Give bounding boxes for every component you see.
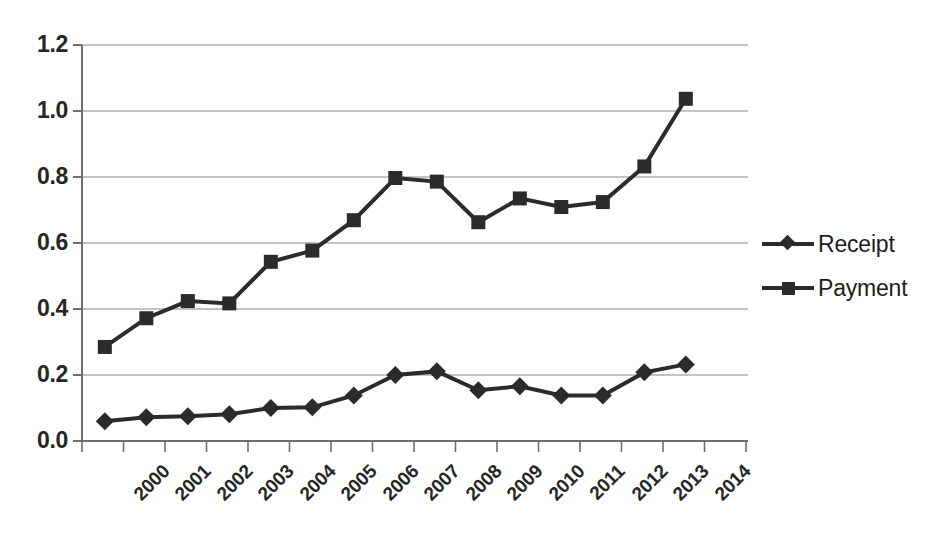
data-point-receipt-2012[interactable] [594,386,612,404]
data-point-payment-2002[interactable] [181,294,195,308]
data-point-payment-2007[interactable] [388,171,402,185]
legend-item-receipt[interactable]: Receipt [762,222,927,266]
data-point-receipt-2008[interactable] [428,362,446,380]
data-point-receipt-2004[interactable] [262,399,280,417]
data-point-payment-2011[interactable] [554,200,568,214]
y-axis-tick-label: 0.6 [8,231,68,254]
legend-item-payment[interactable]: Payment [762,266,927,310]
data-point-payment-2010[interactable] [513,191,527,205]
data-point-payment-2009[interactable] [471,215,485,229]
data-series-layer [96,92,695,430]
y-axis-ticks [73,45,82,441]
chart-legend: Receipt Payment [762,222,927,310]
y-axis-tick-label: 1.0 [8,99,68,122]
y-axis-tick-label: 0.4 [8,297,68,320]
y-axis-tick-label: 1.2 [8,33,68,56]
legend-symbol-payment [762,277,814,299]
legend-label-receipt: Receipt [814,233,895,256]
data-point-payment-2008[interactable] [430,175,444,189]
data-point-payment-2000[interactable] [98,340,112,354]
data-point-receipt-2010[interactable] [511,377,529,395]
data-point-payment-2004[interactable] [264,255,278,269]
data-point-receipt-2001[interactable] [137,408,155,426]
data-point-receipt-2000[interactable] [96,412,114,430]
y-axis-tick-label: 0.0 [8,429,68,452]
data-point-receipt-2013[interactable] [635,363,653,381]
legend-symbol-receipt [762,233,814,255]
data-point-receipt-2011[interactable] [552,386,570,404]
data-point-payment-2006[interactable] [347,213,361,227]
data-point-payment-2013[interactable] [637,159,651,173]
data-point-payment-2003[interactable] [222,296,236,310]
data-point-receipt-2006[interactable] [345,386,363,404]
square-marker-icon [782,282,795,295]
y-axis-tick-label: 0.2 [8,363,68,386]
x-axis-ticks [82,441,746,452]
data-point-payment-2012[interactable] [596,195,610,209]
data-point-payment-2001[interactable] [139,311,153,325]
diamond-marker-icon [780,235,796,251]
y-axis-tick-label: 0.8 [8,165,68,188]
gridlines [82,45,748,441]
data-point-receipt-2007[interactable] [386,366,404,384]
data-point-receipt-2003[interactable] [220,405,238,423]
legend-label-payment: Payment [814,277,907,300]
data-point-receipt-2005[interactable] [303,398,321,416]
series-line-payment [105,99,686,347]
data-point-receipt-2014[interactable] [677,355,695,373]
line-chart: 0.00.20.40.60.81.01.2 200020012002200320… [0,0,931,537]
data-point-payment-2014[interactable] [679,92,693,106]
data-point-receipt-2009[interactable] [469,381,487,399]
data-point-payment-2005[interactable] [305,244,319,258]
data-point-receipt-2002[interactable] [179,407,197,425]
